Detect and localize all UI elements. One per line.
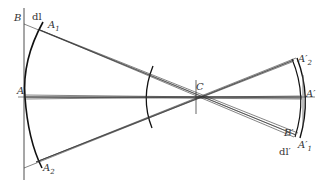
label-A1-prime: A′1 [298,140,312,153]
label-dl-prime: dl′ [279,147,291,157]
label-A2-prime: A′2 [298,54,312,67]
label-A1: A1 [48,20,60,33]
label-A-prime: A′ [306,89,316,99]
label-B-prime: B′ [284,128,294,138]
label-A2: A2 [43,163,55,176]
label-B: B [14,13,21,23]
rays [24,24,302,168]
label-dl: dl [32,12,42,22]
label-A: A [17,86,24,96]
label-C: C [196,82,204,92]
